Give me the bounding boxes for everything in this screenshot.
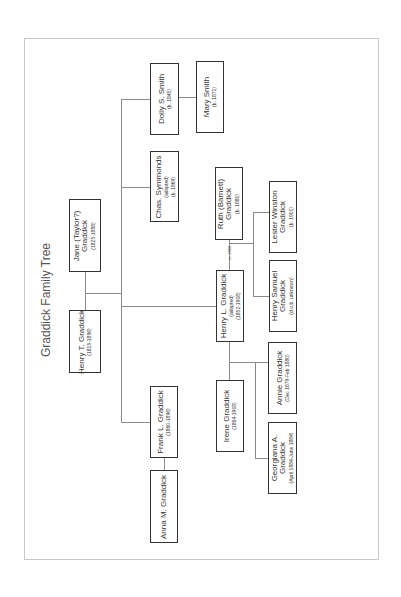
connector-henry-l-daughters (229, 342, 230, 380)
connector-dolly-mary (179, 97, 196, 98)
connector-couple-to-trunk (85, 293, 121, 294)
connector-daughters-trunk (255, 362, 256, 459)
connector-daughters-branch (229, 362, 268, 363)
connector-children-trunk (121, 99, 122, 422)
person-irene-graddick: Irene Graddick (1864-1908) (216, 380, 244, 452)
connector-to-georgiana (255, 458, 268, 459)
connector-to-frank (121, 422, 150, 423)
connector-to-lester (253, 212, 269, 213)
marriage-label: m. 1899 (227, 246, 232, 260)
person-henry-samuel-graddick: Henry Samuel Graddick (d.o.b. unknown) (269, 260, 297, 332)
person-henry-l-graddick: Henry L. Graddick (adopted) (1852-1908) (216, 270, 244, 342)
connector-to-henry-s (253, 296, 269, 297)
person-henry-t-graddick: Henry T. Graddick (1815-1896) (69, 310, 101, 373)
person-chas-symmonds: Chas. Symmonds (adopted) (b. 1869) (150, 151, 179, 222)
person-dolly-smith: Dolly S. Smith (b. 1845) (150, 63, 179, 135)
person-georgiana-graddick: Georgiana A. Graddick (April 1884-June 1… (268, 422, 297, 494)
person-jane-graddick: Jane (Taylor?) Graddick (1825-1888) (69, 199, 101, 272)
person-annie-graddick: Annie Graddick (Dec 1879-Feb 1880) (268, 342, 297, 414)
connector-to-henry-l (121, 306, 216, 307)
person-mary-smith: Mary Smith (b. 1871) (196, 61, 224, 133)
person-anna-graddick: Anna M. Graddick (150, 470, 178, 543)
person-lester-winston-graddick: Lester Winston Graddick (b. 1901) (269, 181, 297, 253)
diagram-title: Graddick Family Tree (39, 243, 53, 357)
connector-to-chas (121, 187, 150, 188)
connector-henry-t-jane (85, 272, 86, 310)
person-ruth-graddick: Ruth (Barnett) Graddick (b. 1880) (215, 167, 243, 240)
connector-to-dolly (121, 99, 150, 100)
connector-marriage-children-trunk (253, 212, 254, 297)
person-frank-graddick: Frank L. Graddick (1860-1896) (150, 386, 178, 458)
connector-marriage-children (229, 243, 253, 244)
connector-frank-anna (164, 458, 165, 470)
